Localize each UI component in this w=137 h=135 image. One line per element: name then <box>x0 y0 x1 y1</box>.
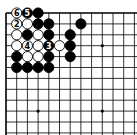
black-stone-move-5: 5 <box>22 8 32 18</box>
move-number-label: 4 <box>25 42 31 51</box>
move-number-label: 5 <box>25 9 31 18</box>
white-stone <box>33 30 43 40</box>
black-stone <box>65 52 75 62</box>
black-stone <box>65 41 75 51</box>
white-stone <box>33 52 43 62</box>
black-stone <box>12 62 22 72</box>
move-number-label: 3 <box>46 42 52 51</box>
go-board: 65243 <box>0 0 137 135</box>
white-stone-move-6: 6 <box>12 8 22 18</box>
black-stone <box>44 30 54 40</box>
move-number-label: 2 <box>14 20 20 29</box>
star-point <box>37 110 40 113</box>
move-number-label: 6 <box>14 9 20 18</box>
black-stone <box>12 52 22 62</box>
white-stone <box>22 19 32 29</box>
black-stone <box>44 19 54 29</box>
white-stone <box>54 41 64 51</box>
white-stone-move-2: 2 <box>12 19 22 29</box>
star-point <box>101 44 104 47</box>
white-stone-move-4: 4 <box>22 41 32 51</box>
black-stone <box>33 8 43 18</box>
black-stone <box>65 30 75 40</box>
black-stone <box>22 30 32 40</box>
white-stone <box>33 41 43 51</box>
white-stone <box>12 30 22 40</box>
white-stone <box>12 41 22 51</box>
black-stone <box>44 62 54 72</box>
white-stone <box>22 52 32 62</box>
black-stone <box>22 62 32 72</box>
star-point <box>101 110 104 113</box>
black-stone-move-3: 3 <box>44 41 54 51</box>
black-stone <box>33 62 43 72</box>
black-stone <box>44 52 54 62</box>
black-stone <box>33 19 43 29</box>
black-stone <box>76 19 86 29</box>
